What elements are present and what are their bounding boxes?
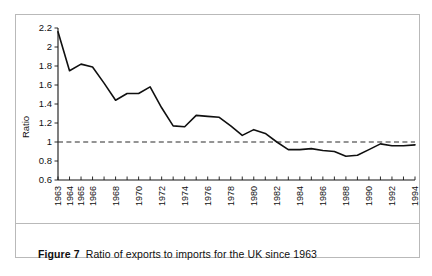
y-tick-label: 1.8 [39, 60, 52, 71]
x-tick-label: 1994 [410, 186, 419, 206]
x-tick-label: 1965 [76, 186, 86, 206]
caption-divider [16, 223, 419, 224]
x-tick-label: 1970 [134, 186, 144, 206]
y-axis-group: 2.221.81.61.41.210.80.6 Ratio [20, 22, 58, 185]
y-tick-label: 2.2 [39, 22, 52, 33]
y-tick-label: 1.6 [39, 79, 52, 90]
x-tick-label: 1974 [180, 186, 190, 206]
data-series-ratio [58, 32, 415, 156]
y-axis-tick-labels: 2.221.81.61.41.210.80.6 [39, 22, 52, 185]
figure-caption: Figure 7 Ratio of exports to imports for… [38, 248, 317, 260]
x-tick-label: 1966 [88, 186, 98, 206]
x-tick-label: 1963 [53, 186, 63, 206]
x-tick-label: 1968 [111, 186, 121, 206]
caption-label: Figure 7 [38, 248, 80, 260]
x-tick-label: 1984 [295, 186, 305, 206]
x-tick-label: 1988 [341, 186, 351, 206]
x-axis-tick-labels: 1963196419651966196819701972197419761978… [53, 186, 419, 206]
y-tick-label: 0.6 [39, 174, 52, 185]
x-tick-label: 1982 [272, 186, 282, 206]
y-tick-label: 0.8 [39, 155, 52, 166]
x-tick-label: 1964 [65, 186, 75, 206]
line-chart: 2.221.81.61.41.210.80.6 Ratio 1963196419… [16, 15, 419, 225]
x-tick-label: 1976 [203, 186, 213, 206]
x-axis-group: 1963196419651966196819701972197419761978… [53, 177, 419, 207]
x-tick-label: 1986 [318, 186, 328, 206]
x-tick-label: 1992 [387, 186, 397, 206]
y-axis-title: Ratio [20, 116, 31, 138]
x-tick-label: 1978 [226, 186, 236, 206]
y-tick-label: 1.4 [39, 98, 52, 109]
x-tick-label: 1972 [157, 186, 167, 206]
y-tick-label: 1.2 [39, 117, 52, 128]
y-tick-label: 2 [47, 41, 52, 52]
x-tick-label: 1980 [249, 186, 259, 206]
figure-frame: 2.221.81.61.41.210.80.6 Ratio 1963196419… [15, 14, 420, 258]
series-group [58, 32, 415, 156]
x-tick-label: 1990 [364, 186, 374, 206]
chart-plot-area: 2.221.81.61.41.210.80.6 Ratio 1963196419… [16, 15, 419, 225]
caption-description: Ratio of exports to imports for the UK s… [86, 248, 317, 260]
y-tick-label: 1 [47, 136, 52, 147]
